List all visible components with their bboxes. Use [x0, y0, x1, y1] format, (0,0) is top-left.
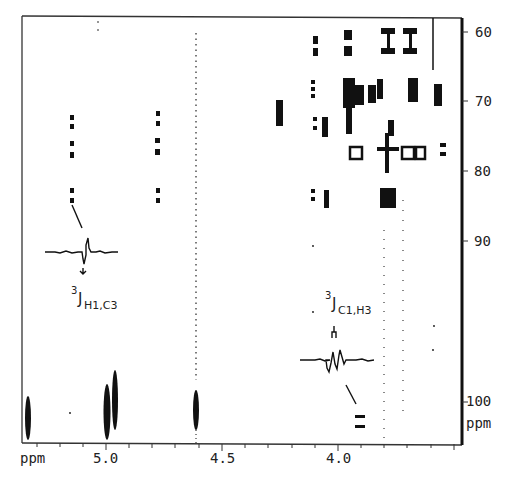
nmr-2d-spectrum: ppm 5.0 4.5 4.0 60 70 80 90 100 ppm [0, 0, 510, 481]
inset-trace-h1-c3 [45, 205, 118, 274]
x-axis-unit-label: ppm [20, 450, 45, 466]
y-tick-label-100: 100 [466, 393, 491, 409]
cross-peaks [25, 18, 446, 445]
y-axis-unit-label: ppm [466, 415, 491, 431]
y-tick-label-90: 90 [474, 233, 491, 249]
svg-text:3: 3 [325, 290, 331, 301]
svg-text:J: J [331, 295, 336, 313]
inset-trace-c1-h3 [300, 326, 374, 404]
annotation-3j-h1-c3: 3 J H1,C3 [71, 285, 117, 312]
y-tick-label-80: 80 [474, 163, 491, 179]
plot-frame [22, 16, 462, 445]
y-tick-label-70: 70 [475, 93, 492, 109]
svg-text:3: 3 [71, 285, 77, 296]
svg-text:J: J [77, 290, 82, 308]
x-tick-label-5.0: 5.0 [93, 450, 118, 466]
svg-text:C1,H3: C1,H3 [338, 304, 371, 317]
x-tick-label-4.0: 4.0 [326, 450, 351, 466]
x-tick-label-4.5: 4.5 [210, 450, 235, 466]
annotation-3j-c1-h3: 3 J C1,H3 [325, 290, 371, 317]
y-tick-label-60: 60 [475, 24, 492, 40]
svg-text:H1,C3: H1,C3 [84, 299, 117, 312]
